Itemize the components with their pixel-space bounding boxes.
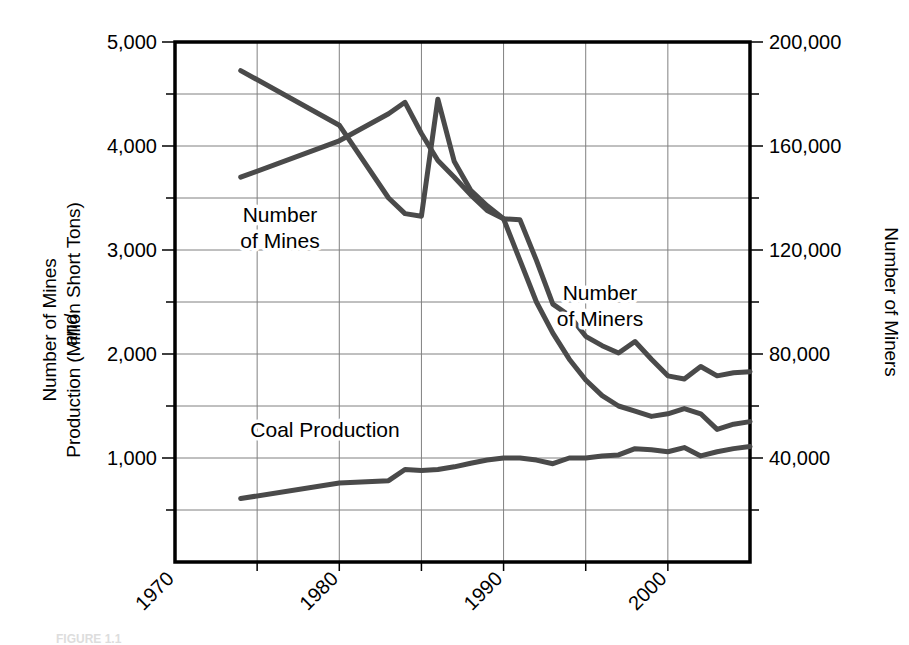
right-tick-label: 40,000 — [769, 447, 830, 469]
x-tick-label: 1990 — [459, 567, 506, 614]
left-axis-tick-labels: 1,0002,0003,0004,0005,000 — [107, 31, 157, 469]
series-annotation-label: of Mines — [240, 229, 319, 252]
right-tick-label: 200,000 — [769, 31, 841, 53]
left-axis-title-line3: Production (Million Short Tons) — [63, 202, 84, 457]
right-axis-ticks — [750, 42, 763, 510]
left-tick-label: 2,000 — [107, 343, 157, 365]
figure-caption: FIGURE 1.1 — [56, 633, 456, 645]
x-tick-label: 2000 — [624, 567, 671, 614]
left-axis-ticks — [162, 42, 175, 510]
x-tick-label: 1970 — [131, 567, 178, 614]
left-tick-label: 5,000 — [107, 31, 157, 53]
series-annotation-label: Number — [243, 203, 318, 226]
series-annotation-label: Number — [563, 281, 638, 304]
figure-root: 1,0002,0003,0004,0005,000 40,00080,00012… — [0, 0, 909, 645]
right-tick-label: 160,000 — [769, 135, 841, 157]
left-tick-label: 3,000 — [107, 239, 157, 261]
right-tick-label: 80,000 — [769, 343, 830, 365]
left-tick-label: 1,000 — [107, 447, 157, 469]
right-tick-label: 120,000 — [769, 239, 841, 261]
right-axis-tick-labels: 40,00080,000120,000160,000200,000 — [769, 31, 841, 469]
coal-industry-line-chart: 1,0002,0003,0004,0005,000 40,00080,00012… — [0, 0, 909, 645]
x-tick-label: 1980 — [295, 567, 342, 614]
left-axis-title-line1: Number of Mines — [39, 258, 60, 401]
series-annotation-label: of Miners — [557, 307, 643, 330]
right-axis-title-text: Number of Miners — [881, 227, 902, 376]
x-axis-tick-labels: 1970198019902000 — [131, 567, 671, 614]
right-axis-title: Number of Miners — [881, 227, 902, 376]
left-axis-title: Number of Mines and Production (Million … — [39, 202, 84, 457]
series-annotation-label: Coal Production — [250, 418, 399, 441]
left-tick-label: 4,000 — [107, 135, 157, 157]
